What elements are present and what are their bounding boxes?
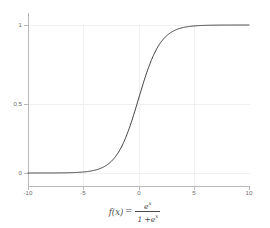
formula-numerator: ex (135, 200, 160, 212)
formula-den-exponent: x (155, 213, 158, 219)
formula-paren-close: ) (120, 207, 123, 217)
sigmoid-figure: 1 0.5 0 -10 -5 0 5 10 f(x)= ex 1 +ex (0, 0, 270, 228)
formula-caption: f(x)= ex 1 +ex (0, 200, 270, 224)
formula-denominator: 1 +ex (135, 212, 160, 223)
formula-fraction: ex 1 +ex (135, 200, 160, 224)
formula-lhs: f(x) (109, 208, 124, 217)
sigmoid-curve-line (28, 25, 249, 173)
formula-den-one: 1 + (137, 214, 150, 223)
curve-svg (0, 0, 270, 228)
formula-num-exponent: x (149, 200, 152, 206)
formula-equals: = (125, 206, 132, 216)
